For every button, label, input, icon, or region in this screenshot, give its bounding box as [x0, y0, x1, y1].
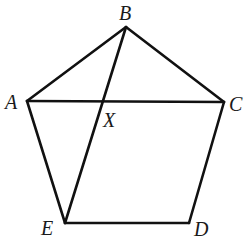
segment-cd: [189, 102, 224, 223]
segment-ab: [27, 27, 126, 101]
segment-ea: [27, 101, 65, 223]
label-b: B: [119, 2, 131, 24]
label-c: C: [229, 93, 243, 115]
label-a: A: [3, 91, 18, 113]
diagonal-be: [65, 27, 126, 223]
label-e: E: [40, 217, 53, 237]
pentagon-diagram: B A C X E D: [0, 0, 247, 237]
diagonal-ac: [27, 101, 224, 102]
label-x: X: [102, 109, 116, 131]
segment-bc: [126, 27, 224, 102]
label-d: D: [193, 218, 209, 237]
